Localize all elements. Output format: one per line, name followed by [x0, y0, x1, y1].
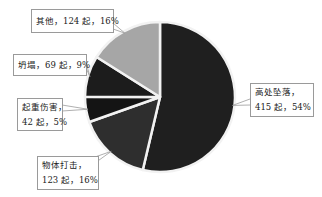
label-line-1: 高处坠落， — [255, 85, 309, 100]
label-line-2: 415 起，54% — [255, 100, 309, 115]
data-label-collapse: 坍塌，69 起，9% — [13, 54, 87, 76]
label-line-1: 其他，124 起，16% — [36, 11, 109, 31]
pie-slices — [85, 22, 235, 172]
data-label-object-strike: 物体打击， 123 起，16% — [37, 156, 99, 190]
label-line-1: 坍塌，69 起，9% — [18, 56, 82, 74]
data-label-other: 其他，124 起，16% — [31, 9, 114, 33]
data-label-falls-from-height: 高处坠落， 415 起，54% — [250, 83, 314, 117]
label-line-1: 起重伤害， — [22, 100, 58, 115]
data-label-lifting-injury: 起重伤害， 42 起，5% — [17, 98, 63, 131]
label-line-2: 42 起，5% — [22, 115, 58, 130]
label-line-2: 123 起，16% — [42, 173, 94, 188]
label-line-1: 物体打击， — [42, 158, 94, 173]
